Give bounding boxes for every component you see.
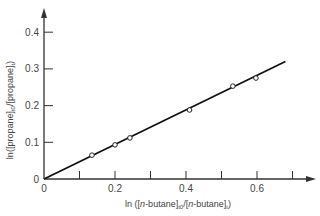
y-tick-label: 0.1 bbox=[25, 137, 39, 148]
data-point bbox=[128, 136, 133, 141]
chart: 00.20.40.6 00.10.20.30.4 ln ([n-butane]t… bbox=[0, 0, 320, 216]
data-point bbox=[187, 108, 192, 113]
data-point bbox=[254, 76, 259, 81]
fit-line bbox=[44, 62, 285, 179]
y-tick-label: 0.4 bbox=[25, 27, 39, 38]
y-tick-label: 0 bbox=[33, 174, 39, 185]
y-axis-label: ln([propane]t0/[propane]t) bbox=[5, 61, 16, 159]
data-point bbox=[113, 143, 118, 148]
x-tick-label: 0 bbox=[41, 183, 47, 194]
x-ticks bbox=[80, 171, 293, 179]
y-tick-label: 0.3 bbox=[25, 63, 39, 74]
x-tick-labels: 00.20.40.6 bbox=[41, 183, 264, 194]
y-ticks bbox=[44, 32, 53, 142]
x-axis-arrow-icon bbox=[306, 176, 316, 182]
axes bbox=[44, 14, 310, 179]
data-point bbox=[231, 84, 236, 89]
y-axis-arrow-icon bbox=[41, 8, 47, 18]
x-axis-label: ln ([n-butane]t0/[n-butane]t) bbox=[125, 199, 231, 210]
x-tick-label: 0.2 bbox=[108, 183, 122, 194]
data-point bbox=[90, 153, 95, 158]
x-tick-label: 0.4 bbox=[179, 183, 193, 194]
y-tick-labels: 00.10.20.30.4 bbox=[25, 27, 39, 185]
y-tick-label: 0.2 bbox=[25, 100, 39, 111]
x-tick-label: 0.6 bbox=[250, 183, 264, 194]
